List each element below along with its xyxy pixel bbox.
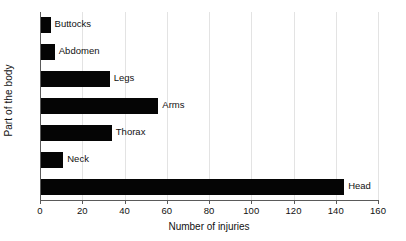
x-tick-label: 40 xyxy=(119,205,130,216)
x-tick-label: 140 xyxy=(328,205,344,216)
bar-label-head: Head xyxy=(348,180,371,191)
y-axis-title-text: Part of the body xyxy=(3,64,14,136)
x-tick-label: 0 xyxy=(37,205,42,216)
bar-row: Arms xyxy=(40,98,378,114)
x-tick-label: 20 xyxy=(77,205,88,216)
bar-label-arms: Arms xyxy=(162,99,184,110)
x-tick-mark xyxy=(82,200,83,204)
x-tick-label: 80 xyxy=(204,205,215,216)
bar-label-abdomen: Abdomen xyxy=(59,45,100,56)
x-tick-mark xyxy=(167,200,168,204)
x-tick-mark xyxy=(251,200,252,204)
bar-row: Neck xyxy=(40,152,378,168)
plot-area: ButtocksAbdomenLegsArmsThoraxNeckHead xyxy=(40,12,378,200)
bar-buttocks xyxy=(40,17,51,33)
x-tick-mark xyxy=(40,200,41,204)
bar-abdomen xyxy=(40,44,55,60)
x-tick-mark xyxy=(294,200,295,204)
bar-row: Thorax xyxy=(40,125,378,141)
bar-row: Head xyxy=(40,179,378,195)
x-tick-label: 120 xyxy=(286,205,302,216)
x-tick-label: 100 xyxy=(243,205,259,216)
bar-label-thorax: Thorax xyxy=(116,126,146,137)
bar-arms xyxy=(40,98,158,114)
bar-thorax xyxy=(40,125,112,141)
x-tick-mark xyxy=(125,200,126,204)
bar-head xyxy=(40,179,344,195)
x-tick-label: 60 xyxy=(161,205,172,216)
x-tick-mark xyxy=(209,200,210,204)
bar-row: Abdomen xyxy=(40,44,378,60)
x-tick-mark xyxy=(378,200,379,204)
x-tick-label: 160 xyxy=(370,205,386,216)
bar-neck xyxy=(40,152,63,168)
bar-row: Legs xyxy=(40,71,378,87)
bar-legs xyxy=(40,71,110,87)
y-axis-line xyxy=(40,12,41,200)
gridline xyxy=(378,12,379,200)
x-axis-title: Number of injuries xyxy=(40,221,378,232)
x-tick-mark xyxy=(336,200,337,204)
y-axis-title: Part of the body xyxy=(0,0,16,200)
bar-label-legs: Legs xyxy=(114,72,135,83)
bar-label-buttocks: Buttocks xyxy=(55,18,91,29)
bar-row: Buttocks xyxy=(40,17,378,33)
bar-label-neck: Neck xyxy=(67,153,89,164)
bar-chart-figure: Part of the body ButtocksAbdomenLegsArms… xyxy=(0,0,406,241)
